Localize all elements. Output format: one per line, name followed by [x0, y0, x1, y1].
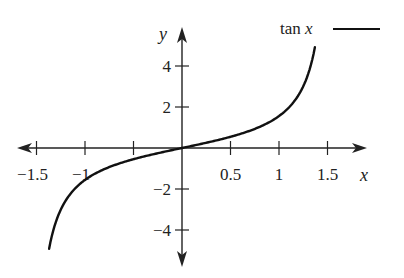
x-axis: −1.5−10.511.5 x [17, 141, 368, 185]
legend-label: tan x [280, 19, 313, 38]
y-axis: 42−2−4 y [153, 24, 189, 267]
legend: tan x [280, 19, 380, 38]
y-tick-label: 4 [163, 57, 172, 76]
x-tick-label: −1 [72, 165, 90, 184]
x-tick-label: −1.5 [17, 165, 48, 184]
x-axis-label: x [359, 165, 368, 185]
x-tick-label: 1 [275, 165, 284, 184]
x-tick-label: 1.5 [317, 165, 338, 184]
tan-chart: −1.5−10.511.5 x 42−2−4 y tan x [0, 0, 404, 278]
y-tick-label: 2 [163, 98, 172, 117]
y-axis-label: y [157, 24, 167, 44]
y-tick-label: −2 [153, 180, 171, 199]
y-tick-label: −4 [153, 221, 172, 240]
x-tick-label: 0.5 [220, 165, 241, 184]
